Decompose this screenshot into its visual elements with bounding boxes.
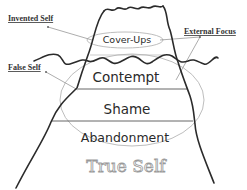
abandonment-label: Abandonment xyxy=(81,130,169,145)
invented-self-leader xyxy=(48,27,92,40)
external-focus-label: External Focus xyxy=(184,27,236,36)
invented-self-leader-dot xyxy=(47,26,49,28)
false-self-leader-dot xyxy=(45,71,47,73)
waterline xyxy=(34,54,218,64)
cover-ups-label: Cover-Ups xyxy=(103,34,152,45)
invented-self-label: Invented Self xyxy=(8,14,53,23)
true-self-label: True Self xyxy=(86,156,167,176)
iceberg-peak xyxy=(104,6,163,11)
false-self-leader xyxy=(46,72,78,90)
false-self-label: False Self xyxy=(8,63,41,72)
contempt-label: Contempt xyxy=(93,69,160,85)
iceberg-diagram: Invented Self External Focus False Self … xyxy=(0,0,247,190)
shame-label: Shame xyxy=(104,101,151,117)
external-focus-leader xyxy=(176,37,200,80)
external-focus-leader-2 xyxy=(160,37,200,40)
external-focus-leader-dot xyxy=(199,36,201,38)
